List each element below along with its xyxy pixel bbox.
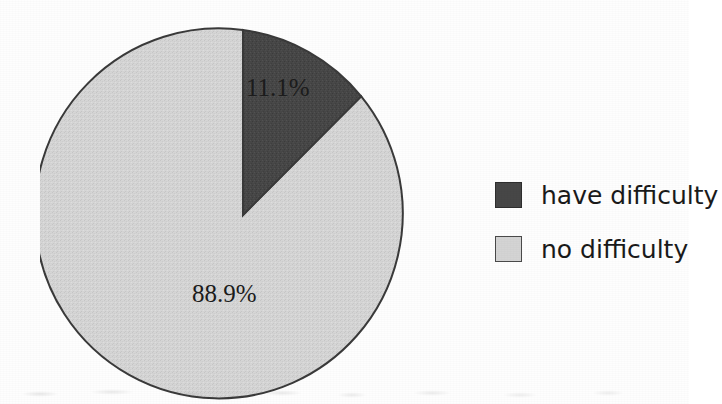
slice-value-label-no-difficulty: 88.9% [192, 281, 257, 306]
legend-item-have-difficulty[interactable]: have difficulty [495, 168, 722, 222]
pie-chart-figure: 11.1% 88.9% have difficulty no difficult… [40, 16, 722, 404]
legend-label-no-difficulty: no difficulty [541, 237, 688, 262]
chart-legend: have difficulty no difficulty [495, 168, 722, 276]
legend-label-have-difficulty: have difficulty [541, 183, 718, 208]
legend-swatch-icon-have-difficulty [495, 182, 522, 208]
slice-value-label-have-difficulty: 11.1% [246, 75, 310, 100]
legend-swatch-icon-no-difficulty [495, 236, 522, 262]
legend-item-no-difficulty[interactable]: no difficulty [495, 222, 722, 276]
